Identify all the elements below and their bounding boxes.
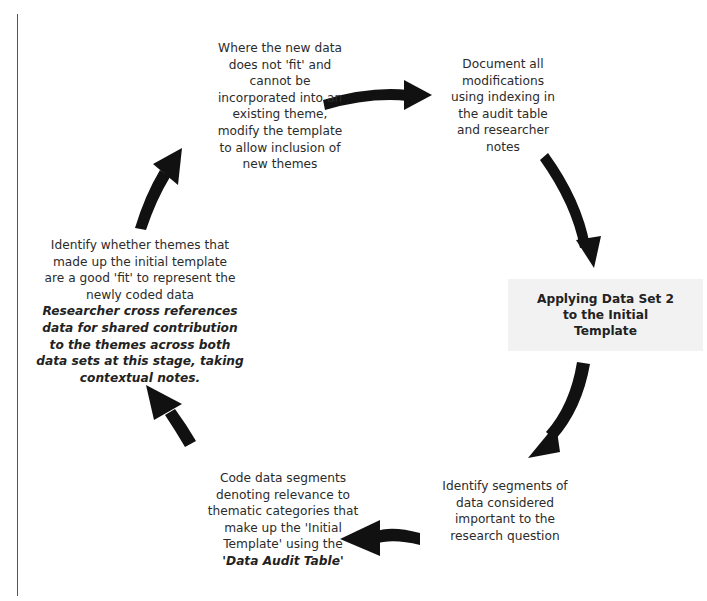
- node-emphasis-line: to the themes across both: [20, 337, 260, 354]
- node-modify-template: Where the new data does not 'fit' and ca…: [180, 40, 380, 173]
- node-line: make up the 'Initial: [198, 520, 368, 537]
- node-emphasis-line: data for shared contribution: [20, 320, 260, 337]
- node-emphasis-line: Researcher cross references: [20, 303, 260, 320]
- node-identify-themes-fit: Identify whether themes that made up the…: [20, 237, 260, 386]
- node-line: Where the new data: [180, 40, 380, 57]
- arrow-up-left-icon: [146, 385, 196, 447]
- node-line: are a good 'fit' to represent the: [20, 270, 260, 287]
- node-line: using indexing in: [428, 89, 578, 106]
- node-line: to allow inclusion of: [180, 140, 380, 157]
- node-line: and researcher: [428, 122, 578, 139]
- node-line: Identify segments of: [420, 478, 590, 495]
- arrow-up-right-icon: [135, 148, 182, 230]
- node-line: made up the initial template: [20, 254, 260, 271]
- node-line: notes: [428, 139, 578, 156]
- node-line: existing theme,: [180, 106, 380, 123]
- node-line: newly coded data: [20, 287, 260, 304]
- node-line: modify the template: [180, 123, 380, 140]
- node-line: Template' using the: [198, 536, 368, 553]
- node-line: modifications: [428, 73, 578, 90]
- node-line: data considered: [420, 495, 590, 512]
- node-line: incorporated into an: [180, 90, 380, 107]
- node-line: Code data segments: [198, 470, 368, 487]
- node-identify-segments: Identify segments of data considered imp…: [420, 478, 590, 544]
- node-line: the audit table: [428, 106, 578, 123]
- node-line: thematic categories that: [198, 503, 368, 520]
- center-box-label: Applying Data Set 2 to the Initial Templ…: [531, 291, 681, 339]
- arrow-down-left-icon: [528, 362, 590, 458]
- node-code-segments: Code data segments denoting relevance to…: [198, 470, 368, 570]
- node-line: denoting relevance to: [198, 487, 368, 504]
- node-emphasis-line: contextual notes.: [20, 370, 260, 387]
- node-line: research question: [420, 528, 590, 545]
- node-line: new themes: [180, 156, 380, 173]
- arrow-down-icon: [540, 153, 601, 268]
- node-line: cannot be: [180, 73, 380, 90]
- node-document-modifications: Document all modifications using indexin…: [428, 56, 578, 156]
- node-line: does not 'fit' and: [180, 57, 380, 74]
- node-line: Identify whether themes that: [20, 237, 260, 254]
- node-line: important to the: [420, 511, 590, 528]
- node-emphasis-line: data sets at this stage, taking: [20, 353, 260, 370]
- node-line: Document all: [428, 56, 578, 73]
- node-emphasis: 'Data Audit Table': [198, 553, 368, 570]
- center-box-applying-data-set: Applying Data Set 2 to the Initial Templ…: [508, 279, 703, 351]
